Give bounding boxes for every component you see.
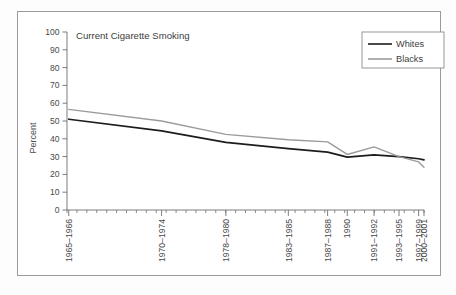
series-line-whites [69,119,424,160]
y-tick-label: 60 [50,98,60,108]
legend-label-whites: Whites [396,39,424,49]
x-tick-label: 1993–1995 [394,219,404,262]
x-tick-label: 1965–1966 [64,219,74,262]
y-tick-label: 40 [50,134,60,144]
y-tick-label: 70 [50,80,60,90]
y-tick-label: 50 [50,116,60,126]
x-tick-label: 1991–1992 [369,219,379,262]
y-tick-label: 80 [50,63,60,73]
x-tick-label: 1983–1985 [284,219,294,262]
y-tick-label: 30 [50,152,60,162]
chart-title: Current Cigarette Smoking [76,30,190,41]
y-tick-label: 100 [45,27,60,37]
x-tick-label: 1970–1974 [157,219,167,262]
chart-plot: 100 90 80 70 60 50 40 30 20 10 0 Percent [0,0,456,295]
y-axis-title: Percent [28,122,38,154]
y-tick-label: 0 [55,205,60,215]
legend: Whites Blacks [362,32,444,68]
figure-container: 100 90 80 70 60 50 40 30 20 10 0 Percent [0,0,456,295]
x-axis-major-ticks [69,210,424,216]
x-tick-label: 1978–1980 [221,219,231,262]
legend-label-blacks: Blacks [396,54,423,64]
y-tick-label: 90 [50,45,60,55]
x-tick-label: 2000–2001 [419,219,429,262]
data-series-group [69,109,424,167]
y-tick-label: 20 [50,169,60,179]
x-tick-label: 1987–1988 [323,219,333,262]
y-axis-ticks: 100 90 80 70 60 50 40 30 20 10 0 [45,27,67,215]
y-tick-label: 10 [50,187,60,197]
x-axis-tick-labels: 1965–19661970–19741978–19801983–19851987… [64,219,429,262]
x-tick-label: 1990 [342,219,352,238]
series-line-blacks [69,109,424,167]
